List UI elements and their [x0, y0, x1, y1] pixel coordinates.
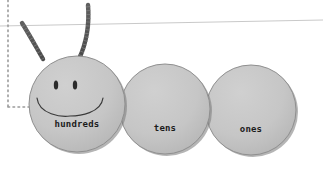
segment-circle[interactable] — [206, 65, 296, 155]
caterpillar-illustration — [0, 0, 323, 176]
horizon-guide-line — [0, 20, 323, 26]
antennae-group — [22, 5, 88, 59]
body-segments-group — [29, 56, 298, 157]
segment-ones[interactable] — [206, 65, 298, 157]
segment-hundreds[interactable] — [29, 56, 127, 154]
right-eye-icon — [73, 80, 77, 89]
segment-tens[interactable] — [120, 64, 212, 156]
segment-circle[interactable] — [29, 56, 125, 152]
left-antenna-icon — [22, 23, 43, 59]
left-eye-icon — [54, 80, 58, 89]
segment-circle[interactable] — [120, 64, 210, 154]
figure-canvas: hundreds tens ones — [0, 0, 323, 176]
